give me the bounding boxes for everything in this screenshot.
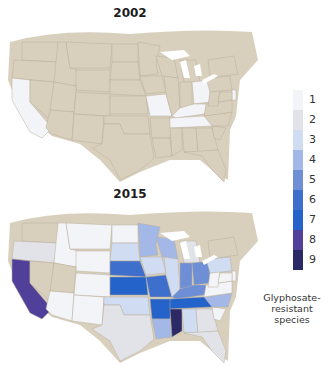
state-ar bbox=[150, 118, 172, 138]
state-al bbox=[182, 128, 198, 152]
state-nm bbox=[72, 295, 104, 325]
state-de bbox=[232, 271, 236, 281]
legend-label-1: 1 bbox=[309, 93, 316, 106]
legend-label-8: 8 bbox=[309, 233, 316, 246]
state-ne bbox=[110, 80, 146, 96]
state-al bbox=[182, 309, 198, 333]
map-2002 bbox=[0, 20, 260, 185]
state-ut bbox=[50, 263, 76, 293]
state-ut bbox=[50, 82, 76, 112]
state-co bbox=[74, 273, 110, 297]
state-ny bbox=[208, 237, 238, 259]
legend-caption: Glyphosate- resistant species bbox=[255, 292, 329, 325]
legend-swatch-8 bbox=[293, 230, 303, 250]
state-az bbox=[46, 291, 74, 321]
map-2015 bbox=[0, 201, 260, 366]
state-md bbox=[218, 92, 232, 102]
legend-label-6: 6 bbox=[309, 193, 316, 206]
legend-swatch-1 bbox=[293, 90, 303, 110]
legend-label-2: 2 bbox=[309, 113, 316, 126]
legend-swatch-6 bbox=[293, 190, 303, 210]
legend-label-5: 5 bbox=[309, 173, 316, 186]
state-mt bbox=[66, 223, 112, 249]
state-sd bbox=[110, 243, 140, 261]
state-md bbox=[218, 273, 232, 283]
legend-label-7: 7 bbox=[309, 213, 316, 226]
state-az bbox=[46, 110, 74, 140]
state-in bbox=[180, 263, 192, 289]
legend-swatch-2 bbox=[293, 110, 303, 130]
legend-label-4: 4 bbox=[309, 153, 316, 166]
state-ny bbox=[208, 56, 238, 78]
legend-swatch-3 bbox=[293, 130, 303, 150]
legend-color-scale bbox=[293, 90, 303, 270]
state-nd bbox=[112, 44, 138, 62]
state-nd bbox=[112, 225, 138, 243]
legend-caption-line: Glyphosate- bbox=[255, 292, 329, 303]
legend-label-9: 9 bbox=[309, 253, 316, 266]
state-sd bbox=[110, 62, 140, 80]
state-co bbox=[74, 92, 110, 116]
state-wy bbox=[76, 70, 110, 92]
state-wa bbox=[22, 42, 58, 62]
legend-label-3: 3 bbox=[309, 133, 316, 146]
map-title-2015: 2015 bbox=[100, 187, 160, 201]
state-wy bbox=[76, 251, 110, 273]
state-nm bbox=[72, 114, 104, 144]
legend-swatch-7 bbox=[293, 210, 303, 230]
state-de bbox=[232, 90, 236, 100]
legend-swatch-4 bbox=[293, 150, 303, 170]
state-oh bbox=[192, 80, 210, 104]
legend-swatch-5 bbox=[293, 170, 303, 190]
state-wv bbox=[208, 90, 220, 106]
state-wa bbox=[22, 223, 58, 243]
map-title-2002: 2002 bbox=[100, 6, 160, 20]
state-ar bbox=[150, 299, 172, 319]
state-ks bbox=[110, 96, 148, 114]
state-wv bbox=[208, 271, 220, 287]
legend-swatch-9 bbox=[293, 250, 303, 270]
state-ne bbox=[110, 261, 146, 277]
state-in bbox=[180, 82, 192, 108]
legend-caption-line: resistant bbox=[255, 303, 329, 314]
state-ks bbox=[110, 277, 148, 295]
state-oh bbox=[192, 261, 210, 285]
legend-caption-line: species bbox=[255, 314, 329, 325]
state-mt bbox=[66, 42, 112, 68]
